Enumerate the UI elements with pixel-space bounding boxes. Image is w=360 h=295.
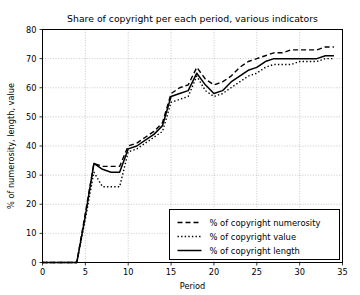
x-tick-label: 25 bbox=[252, 267, 262, 277]
x-tick-label: 30 bbox=[294, 267, 304, 277]
legend-label-1: % of copyright value bbox=[210, 232, 297, 242]
y-tick-label: 80 bbox=[26, 25, 36, 35]
y-tick-label: 10 bbox=[26, 228, 36, 238]
y-tick-label: 60 bbox=[26, 83, 36, 93]
legend-label-2: % of copyright length bbox=[210, 246, 300, 256]
y-axis-label: % of numerosity, length, value bbox=[6, 83, 16, 209]
x-tick-label: 0 bbox=[40, 267, 45, 277]
y-tick-label: 20 bbox=[26, 199, 36, 209]
y-tick-labels: 01020304050607080 bbox=[26, 25, 36, 268]
y-tick-label: 0 bbox=[31, 258, 36, 268]
chart-legend: % of copyright numerosity% of copyright … bbox=[170, 210, 340, 260]
x-tick-label: 20 bbox=[209, 267, 219, 277]
chart-figure: Share of copyright per each period, vari… bbox=[0, 0, 360, 295]
y-tick-label: 30 bbox=[26, 170, 36, 180]
x-tick-label: 15 bbox=[166, 267, 176, 277]
y-tick-label: 40 bbox=[26, 141, 36, 151]
x-tick-label: 35 bbox=[337, 267, 347, 277]
chart-title: Share of copyright per each period, vari… bbox=[67, 13, 318, 24]
y-tick-label: 70 bbox=[26, 54, 36, 64]
y-tick-label: 50 bbox=[26, 112, 36, 122]
legend-label-0: % of copyright numerosity bbox=[210, 218, 321, 228]
x-tick-label: 5 bbox=[83, 267, 88, 277]
x-tick-label: 10 bbox=[123, 267, 133, 277]
line-chart: Share of copyright per each period, vari… bbox=[0, 0, 360, 295]
x-axis-label: Period bbox=[180, 281, 206, 291]
